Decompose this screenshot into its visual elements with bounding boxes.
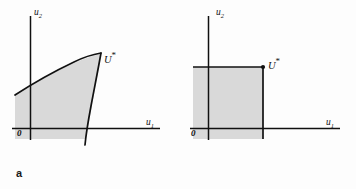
- y-axis-label-a: u2: [34, 8, 42, 19]
- origin-label-b: 0: [191, 129, 196, 138]
- corner-point-marker-b: [261, 65, 265, 69]
- set-label-b: U*: [268, 57, 280, 71]
- panel-caption-a: a: [16, 168, 22, 179]
- panel-b: u2 u1 0 U* b: [178, 0, 356, 189]
- y-axis-label-b: u2: [216, 8, 224, 19]
- set-label-a: U*: [104, 51, 116, 65]
- x-axis-label-a: u1: [146, 118, 154, 129]
- x-axis-label-b: u1: [326, 118, 334, 129]
- panel-a: u2 u1 0 U* a: [0, 0, 178, 189]
- panel-a-plot: [0, 0, 178, 189]
- origin-label-a: 0: [17, 129, 22, 138]
- figure-root: u2 u1 0 U* a u2: [0, 0, 356, 189]
- panel-b-plot: [178, 0, 356, 189]
